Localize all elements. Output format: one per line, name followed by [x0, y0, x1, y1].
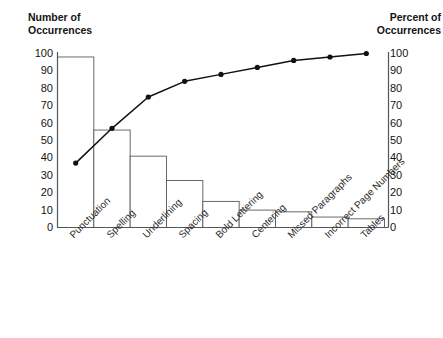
category-label-missed-paragraphs: Missed Paragraphs — [286, 172, 354, 240]
category-label-spacing: Spacing — [177, 207, 210, 240]
category-axis-labels: PunctuationSpellingUnderliningSpacingBol… — [0, 0, 443, 338]
category-label-centering: Centering — [250, 202, 288, 240]
pareto-chart: Number of Occurrences Percent of Occurre… — [0, 0, 443, 338]
category-label-tables: Tables — [359, 212, 387, 240]
category-label-spelling: Spelling — [105, 207, 137, 239]
